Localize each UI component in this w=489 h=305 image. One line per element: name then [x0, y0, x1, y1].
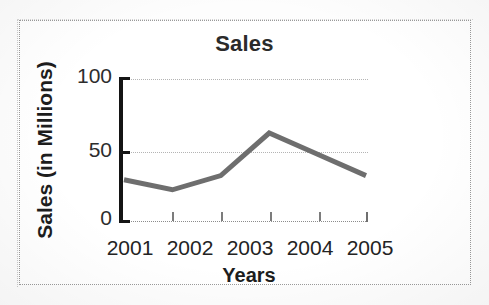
chart-screenshot: Sales Sales (in Millions) 100 50 0 2001 …: [0, 0, 489, 305]
x-axis-label-2002: 2002: [160, 236, 220, 260]
x-axis-tick-4: [319, 212, 321, 221]
x-axis-tick-1: [172, 212, 174, 221]
x-axis-tick-2: [221, 212, 223, 221]
x-axis-label-2004: 2004: [280, 236, 340, 260]
y-tick-label-100: 100: [58, 64, 112, 88]
x-axis-tick-end: [366, 212, 368, 222]
x-axis-label-2003: 2003: [220, 236, 280, 260]
y-axis-line: [119, 77, 123, 223]
plot-area: [122, 79, 368, 221]
x-axis-label-2001: 2001: [100, 236, 160, 260]
y-axis-tick-100: [119, 77, 130, 80]
y-tick-label-50: 50: [58, 138, 112, 162]
y-axis-tick-50: [119, 151, 130, 154]
gridline-0: [122, 221, 368, 222]
x-axis-label-group: 2001 2002 2003 2004 2005: [100, 236, 400, 260]
y-tick-label-0: 0: [58, 206, 112, 230]
x-axis-label-2005: 2005: [340, 236, 400, 260]
y-axis-tick-0: [119, 220, 130, 223]
x-axis-title: Years: [118, 264, 380, 287]
gridline-50: [122, 152, 368, 153]
gridline-100: [122, 79, 368, 80]
x-axis-tick-3: [270, 212, 272, 221]
